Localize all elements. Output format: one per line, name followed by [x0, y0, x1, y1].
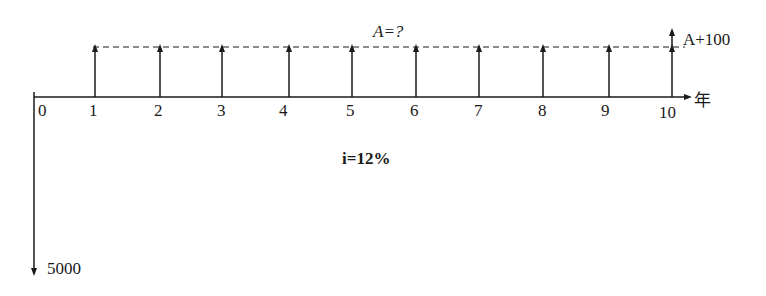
period-label-5: 5: [346, 101, 355, 120]
axis-unit-label: 年: [694, 91, 711, 110]
period-label-2: 2: [154, 101, 163, 120]
period-label-8: 8: [538, 101, 547, 120]
period-label-6: 6: [410, 101, 419, 120]
period-label-1: 1: [89, 101, 98, 120]
period-label-0: 0: [38, 101, 47, 120]
cash-flow-diagram: 0 1 2 3 4 5 6 7 8 9 10 年 A=? A+100 i=12%…: [0, 0, 766, 296]
period-label-4: 4: [279, 101, 288, 120]
annuity-label: A=?: [372, 22, 404, 41]
period-label-3: 3: [217, 101, 226, 120]
period-labels: 0 1 2 3 4 5 6 7 8 9 10: [38, 101, 676, 122]
period-label-9: 9: [601, 101, 610, 120]
final-payment-label: A+100: [683, 30, 730, 49]
interest-rate-label: i=12%: [342, 149, 390, 168]
period-label-7: 7: [474, 101, 483, 120]
annuity-arrows: [95, 32, 672, 97]
initial-outflow-label: 5000: [47, 259, 81, 278]
period-label-10: 10: [659, 103, 676, 122]
